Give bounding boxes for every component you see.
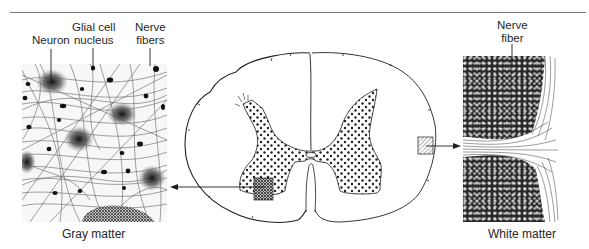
- gray-sample-square: [254, 178, 273, 200]
- spinal-cord-diagram: [0, 0, 589, 249]
- spinal-cord-section: [185, 53, 436, 223]
- white-matter-panel: [463, 54, 559, 224]
- gray-matter-panel: [18, 64, 167, 222]
- white-sample-square: [418, 137, 433, 154]
